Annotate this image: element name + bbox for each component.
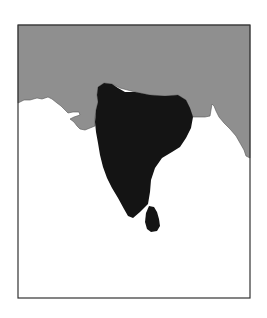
map-canvas [0, 0, 267, 318]
